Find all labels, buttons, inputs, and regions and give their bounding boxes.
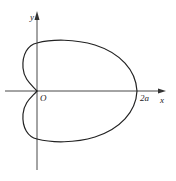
x-axis-arrow-icon — [158, 89, 166, 94]
origin-label: O — [40, 93, 47, 103]
y-axis-arrow-icon — [35, 11, 40, 20]
x-tick-label-2a: 2a — [140, 93, 150, 103]
x-axis-label: x — [159, 95, 164, 105]
cardioid-diagram: y x O 2a — [0, 0, 176, 181]
y-axis-label: y — [29, 12, 34, 22]
